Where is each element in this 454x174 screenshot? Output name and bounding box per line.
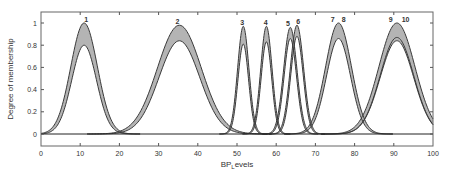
peak-label-9: 9 [389,16,393,23]
x-axis-label-main: BP [221,160,232,169]
y-tick-label: 1 [33,20,37,27]
peak-label-7: 7 [331,16,335,23]
peak-label-4: 4 [264,19,268,26]
x-tick-label: 20 [116,150,124,157]
x-tick-label: 30 [155,150,163,157]
peak-label-10: 10 [402,16,410,23]
lower-membership-curve-1-0 [41,45,140,134]
peak-label-1: 1 [84,16,88,23]
x-tick-label: 100 [427,150,439,157]
y-tick-label: 0.4 [27,86,37,93]
x-tick-label: 90 [390,150,398,157]
peak-label-3: 3 [240,19,244,26]
x-tick-label: 50 [233,150,241,157]
x-tick-label: 80 [351,150,359,157]
fou-area-9 [321,23,433,134]
peak-label-6: 6 [296,18,300,25]
lower-membership-curve-2-0 [87,41,271,134]
y-tick-label: 0.8 [27,42,37,49]
membership-chart: 010203040506070809010000.20.40.60.81 123… [0,0,454,174]
x-tick-label: 70 [312,150,320,157]
peak-labels: 12345678910 [84,16,409,27]
lower-membership-curve-9-1 [321,41,433,134]
peak-label-5: 5 [286,20,290,27]
membership-curves [41,23,433,134]
y-tick-label: 0 [33,131,37,138]
x-axis-label-rest: evels [235,160,254,169]
y-tick-label: 0.2 [27,108,37,115]
x-tick-label: 0 [39,150,43,157]
peak-label-2: 2 [175,18,179,25]
y-axis-label: Degree of membership [6,38,15,120]
fou-area-1 [41,23,140,134]
x-tick-label: 60 [272,150,280,157]
y-tick-label: 0.6 [27,64,37,71]
x-axis-label: BPLevels [221,160,254,170]
x-tick-label: 40 [194,150,202,157]
x-tick-label: 10 [76,150,84,157]
peak-label-8: 8 [342,16,346,23]
